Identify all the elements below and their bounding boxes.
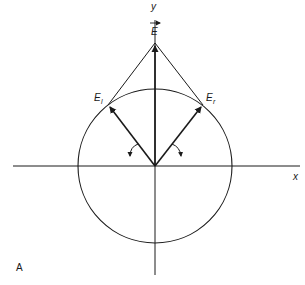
svg-text:E: E xyxy=(94,92,101,103)
label-E-resultant: E xyxy=(150,23,160,37)
vector-E-right xyxy=(155,107,201,166)
svg-text:E: E xyxy=(206,92,213,103)
polarization-diagram: y x E E l E r A xyxy=(0,0,305,285)
construction-line-right xyxy=(155,43,203,105)
label-E-right: E r xyxy=(206,92,216,105)
rotation-arrow-left-icon xyxy=(130,144,138,156)
label-E-left: E l xyxy=(94,92,103,105)
rotation-arrow-right-icon xyxy=(172,144,181,156)
svg-text:l: l xyxy=(101,98,103,105)
construction-line-left xyxy=(108,43,155,105)
svg-text:r: r xyxy=(213,98,216,105)
y-axis-label: y xyxy=(150,1,157,12)
panel-label: A xyxy=(16,262,23,273)
svg-text:E: E xyxy=(151,26,158,37)
x-axis-label: x xyxy=(292,171,299,182)
vector-E-left xyxy=(110,107,155,166)
